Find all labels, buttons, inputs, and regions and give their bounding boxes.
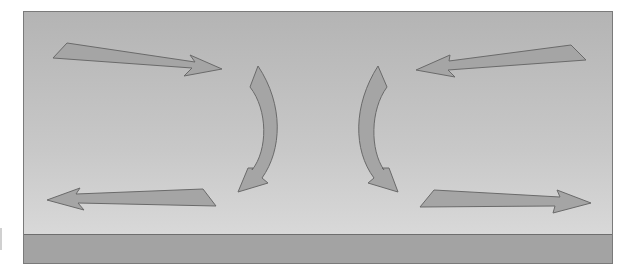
arrow-top-right-icon	[416, 45, 586, 77]
arrow-curved-right-icon	[359, 66, 398, 192]
arrows-layer	[0, 0, 630, 280]
arrow-bottom-right-icon	[420, 190, 591, 213]
arrow-curved-left-icon	[238, 66, 277, 192]
arrow-bottom-left-icon	[47, 188, 216, 210]
arrow-top-left-icon	[53, 43, 222, 76]
